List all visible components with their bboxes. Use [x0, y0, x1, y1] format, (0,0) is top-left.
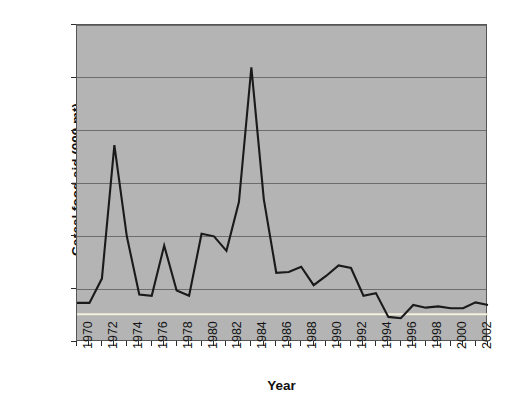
x-tick-label: 1988	[305, 321, 319, 349]
x-tick-label: 2000	[455, 321, 469, 349]
x-tick-label: 1978	[181, 321, 195, 349]
plot-area	[76, 24, 487, 341]
x-tick-label: 1976	[156, 321, 170, 349]
x-tick-mark	[275, 341, 276, 346]
x-tick-mark	[176, 341, 177, 346]
x-tick-mark	[425, 341, 426, 346]
x-tick-label: 1996	[405, 321, 419, 349]
x-tick-label: 1984	[255, 321, 269, 349]
x-tick-label: 1998	[430, 321, 444, 349]
x-tick-mark	[325, 341, 326, 346]
x-tick-mark	[126, 341, 127, 346]
x-tick-mark	[475, 341, 476, 346]
x-tick-label: 2002	[480, 321, 494, 349]
x-tick-label: 1974	[131, 321, 145, 349]
chart-figure: Cereal food aid (000 mt) 02004006008001,…	[0, 0, 512, 408]
x-tick-label: 1992	[355, 321, 369, 349]
x-tick-label: 1980	[206, 321, 220, 349]
series-layer	[77, 25, 488, 342]
x-tick-mark	[250, 341, 251, 346]
x-tick-label: 1994	[380, 321, 394, 349]
series-line-cereal-food-aid	[77, 67, 488, 318]
x-tick-mark	[101, 341, 102, 346]
x-tick-mark	[300, 341, 301, 346]
x-tick-mark	[350, 341, 351, 346]
x-tick-mark	[375, 341, 376, 346]
x-tick-label: 1972	[106, 321, 120, 349]
x-tick-mark	[76, 341, 77, 346]
x-tick-label: 1986	[280, 321, 294, 349]
x-tick-label: 1970	[81, 321, 95, 349]
x-tick-mark	[450, 341, 451, 346]
x-axis-title: Year	[76, 378, 487, 393]
x-tick-mark	[225, 341, 226, 346]
x-tick-mark	[151, 341, 152, 346]
x-tick-label: 1982	[230, 321, 244, 349]
x-tick-mark	[201, 341, 202, 346]
x-tick-label: 1990	[330, 321, 344, 349]
x-tick-mark	[400, 341, 401, 346]
